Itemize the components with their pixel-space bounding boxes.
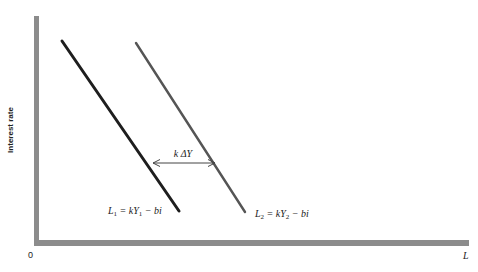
curve-l2 xyxy=(136,43,245,212)
shift-label: k ΔY xyxy=(174,148,194,159)
x-axis-title: L xyxy=(462,250,469,261)
y-axis xyxy=(34,16,39,246)
x-axis xyxy=(34,240,469,246)
origin-label: 0 xyxy=(28,250,33,260)
money-demand-chart: Interest rate 0 L k ΔY L1 = kY1 − bi L2 … xyxy=(0,0,478,272)
curve-l1-label: L1 = kY1 − bi xyxy=(107,205,162,218)
curve-l1 xyxy=(62,41,179,211)
curve-l2-label: L2 = kY2 − bi xyxy=(254,208,309,221)
y-axis-title: Interest rate xyxy=(6,107,15,153)
